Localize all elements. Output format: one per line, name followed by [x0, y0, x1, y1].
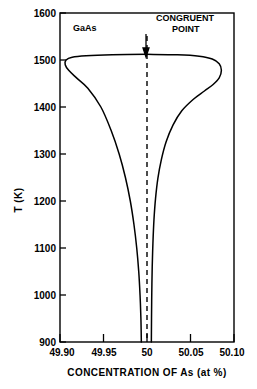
material-label: GaAs [73, 23, 97, 33]
x-tick-label: 49.95 [91, 347, 116, 358]
y-tick-label: 1600 [34, 8, 57, 19]
y-tick-label: 1300 [34, 149, 57, 160]
x-tick-label: 50.05 [178, 347, 203, 358]
x-axis-tick-labels: 49.90 49.95 50 50.05 50.10 [49, 347, 244, 358]
y-tick-label: 1500 [34, 55, 57, 66]
congruent-point-label-line2: POINT [172, 24, 200, 34]
phase-diagram-figure: 1600 1500 1400 1300 1200 1100 1000 900 4… [0, 0, 257, 389]
y-axis-title: T (K) [13, 188, 24, 213]
solidus-left-branch-curve [65, 54, 147, 342]
y-tick-label: 1100 [34, 243, 56, 254]
y-tick-label: 1000 [34, 290, 57, 301]
y-tick-label: 1400 [34, 102, 57, 113]
x-tick-label: 50 [141, 347, 153, 358]
chart-canvas: 1600 1500 1400 1300 1200 1100 1000 900 4… [0, 0, 257, 389]
x-tick-label: 49.90 [49, 347, 74, 358]
x-axis-title: CONCENTRATION OF As (at %) [67, 367, 226, 378]
x-tick-label: 50.10 [219, 347, 244, 358]
solidus-right-branch-curve [147, 54, 221, 342]
y-tick-label: 1200 [34, 196, 57, 207]
congruent-point-arrow-icon [143, 34, 149, 57]
congruent-point-label-line1: CONGRUENT [156, 13, 215, 23]
y-axis-tick-labels: 1600 1500 1400 1300 1200 1100 1000 900 [34, 8, 57, 348]
